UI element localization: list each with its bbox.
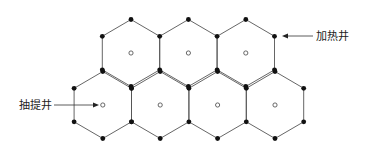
heating-well-marker <box>100 136 105 141</box>
extraction-well-marker <box>186 51 190 55</box>
heating-well-marker <box>186 17 191 22</box>
heating-well-marker <box>215 69 220 74</box>
heating-well-marker <box>157 34 162 39</box>
heating-well-marker <box>273 136 278 141</box>
heating-well-marker <box>244 86 249 91</box>
heating-well-marker <box>273 69 278 74</box>
heating-well-marker <box>243 17 248 22</box>
heating-well-marker <box>100 34 105 39</box>
extraction-well-marker <box>101 103 105 107</box>
heating-well-marker <box>215 34 220 39</box>
heating-well-marker <box>301 86 306 91</box>
heating-well-label: 加热井 <box>316 29 349 43</box>
extraction-well-marker <box>244 51 248 55</box>
heating-well-marker <box>215 136 220 141</box>
extraction-well-label: 抽提井 <box>19 98 52 112</box>
extraction-well-marker <box>273 103 277 107</box>
heating-well-marker <box>72 86 77 91</box>
heating-well-marker <box>187 119 192 124</box>
extraction-well-marker <box>216 103 220 107</box>
heating-well-marker <box>158 69 163 74</box>
heating-well-callout: 加热井 <box>282 29 349 43</box>
heating-well-marker <box>72 119 77 124</box>
well-layout-diagram: 加热井 抽提井 <box>0 0 365 156</box>
heating-well-marker <box>272 34 277 39</box>
heating-well-marker <box>187 86 192 91</box>
heating-well-marker <box>129 119 134 124</box>
heating-well-marker <box>100 69 105 74</box>
extraction-well-arrowhead <box>93 103 99 108</box>
heating-well-marker <box>301 119 306 124</box>
extraction-well-marker <box>129 51 133 55</box>
heating-wells <box>72 17 306 141</box>
heating-well-marker <box>129 86 134 91</box>
heating-well-marker <box>129 17 134 22</box>
heating-well-arrowhead <box>282 34 288 39</box>
extraction-well-callout: 抽提井 <box>19 98 99 112</box>
extraction-well-marker <box>158 103 162 107</box>
heating-well-marker <box>244 119 249 124</box>
heating-well-marker <box>158 136 163 141</box>
